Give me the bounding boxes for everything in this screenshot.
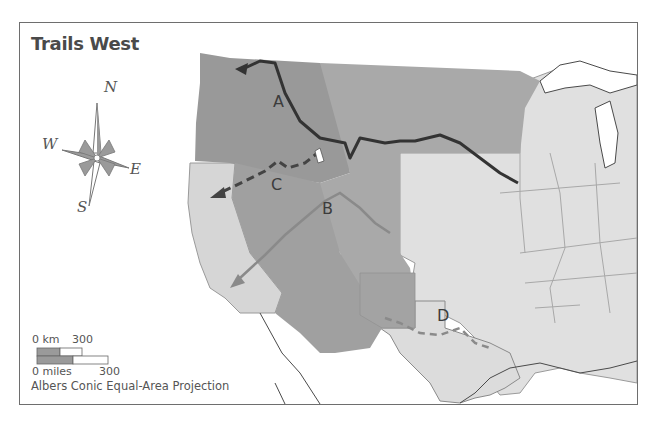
projection-note: Albers Conic Equal-Area Projection [31, 379, 229, 393]
scale-miles-zero: 0 miles [32, 365, 72, 378]
scale-miles-value: 300 [99, 365, 120, 378]
compass-east: E [130, 160, 141, 178]
top-strip [0, 0, 648, 20]
baja-coastline [275, 383, 285, 404]
trail-label-c: C [271, 175, 282, 194]
trail-label-a: A [273, 92, 284, 111]
scale-bar [37, 348, 108, 364]
scale-km-zero: 0 km [32, 333, 60, 346]
compass-rose [62, 103, 129, 206]
compass-north: N [104, 78, 117, 96]
compass-south: S [77, 198, 87, 216]
trail-label-b: B [322, 199, 333, 218]
trail-label-d: D [437, 306, 449, 325]
scale-km-value: 300 [72, 333, 93, 346]
map-frame: Trails West A B C D N W E S 0 km 300 0 m… [19, 22, 638, 405]
compass-west: W [42, 135, 57, 153]
map-title: Trails West [31, 33, 139, 54]
